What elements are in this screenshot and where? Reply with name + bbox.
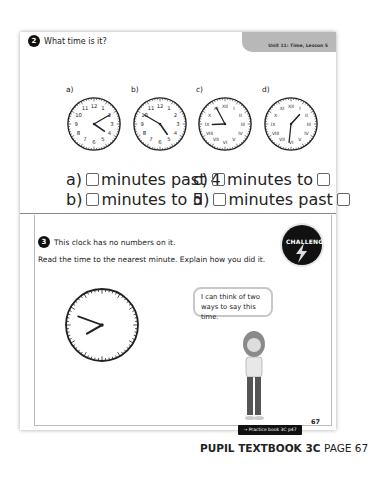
clock-d: XIIIIIIIIIVVVIVIIVIIIIXXXI <box>262 95 320 153</box>
clock-label-a: a) <box>66 85 74 94</box>
girl-character-illustration <box>232 330 276 422</box>
answer-text: minutes past <box>228 190 332 209</box>
challenge-badge: CHALLENGE <box>282 225 322 265</box>
answer-box[interactable] <box>212 173 225 186</box>
practice-book-link[interactable]: → Practice book 3C p47 <box>238 425 302 435</box>
speech-bubble: I can think of two ways to say this time… <box>193 287 273 317</box>
svg-text:III: III <box>241 122 245 127</box>
clock-no-numbers <box>62 285 142 365</box>
svg-text:VIII: VIII <box>272 131 279 136</box>
svg-text:1: 1 <box>167 105 170 111</box>
answer-d: d)minutes past <box>193 190 352 209</box>
section-divider <box>20 213 336 214</box>
svg-text:9: 9 <box>74 121 77 127</box>
unit-label: Unit 11: Time, Lesson 5 <box>268 43 328 48</box>
answer-box[interactable] <box>86 193 99 206</box>
svg-text:II: II <box>305 113 308 118</box>
svg-text:3: 3 <box>176 121 179 127</box>
svg-text:II: II <box>239 113 242 118</box>
question-number: 2 <box>28 35 40 47</box>
svg-text:9: 9 <box>140 121 143 127</box>
question-3: 3This clock has no numbers on it. Read t… <box>38 236 288 271</box>
answer-box-trailing[interactable] <box>337 193 350 206</box>
clock-label-d: d) <box>262 85 270 94</box>
svg-text:I: I <box>299 106 300 111</box>
answer-c: c)minutes to <box>193 170 332 189</box>
svg-text:3: 3 <box>110 121 113 127</box>
svg-text:7: 7 <box>149 136 152 142</box>
page-label: PAGE 67 <box>324 442 368 454</box>
svg-text:XII: XII <box>222 104 228 109</box>
clock-label-c: c) <box>196 85 203 94</box>
clock-label-b: b) <box>131 85 139 94</box>
svg-text:VII: VII <box>279 137 285 142</box>
svg-text:11: 11 <box>148 105 155 111</box>
question-line2: Read the time to the nearest minute. Exp… <box>38 254 288 265</box>
svg-text:XI: XI <box>280 106 285 111</box>
clock-c: XIIIIIIIIIVVVIVIIVIIIIXXXI <box>196 95 254 153</box>
answer-label: d) <box>193 190 209 209</box>
svg-text:VII: VII <box>213 137 219 142</box>
answer-text: minutes to <box>227 170 313 189</box>
svg-text:5: 5 <box>167 136 170 142</box>
svg-text:VIII: VIII <box>206 131 213 136</box>
answer-box[interactable] <box>213 193 226 206</box>
page-number: 67 <box>311 418 320 426</box>
answer-b: b)minutes to 5 <box>66 190 203 209</box>
book-title: PUPIL TEXTBOOK 3C <box>200 442 320 454</box>
clock-b: 121234567891011 <box>131 95 189 153</box>
svg-text:5: 5 <box>101 136 104 142</box>
question-number: 3 <box>38 236 50 248</box>
answer-text: minutes to 5 <box>101 190 202 209</box>
svg-text:I: I <box>233 106 234 111</box>
svg-text:12: 12 <box>91 103 98 109</box>
svg-text:11: 11 <box>82 105 89 111</box>
lightning-icon <box>292 243 312 263</box>
svg-text:1: 1 <box>101 105 104 111</box>
unit-tab: Unit 11: Time, Lesson 5 <box>242 32 336 52</box>
svg-text:III: III <box>307 122 311 127</box>
svg-text:12: 12 <box>157 103 164 109</box>
svg-text:VI: VI <box>223 140 228 145</box>
question-line1: This clock has no numbers on it. <box>54 237 175 248</box>
svg-text:2: 2 <box>174 112 177 118</box>
svg-text:10: 10 <box>75 112 82 118</box>
svg-text:XII: XII <box>288 104 294 109</box>
book-footer: PUPIL TEXTBOOK 3C PAGE 67 <box>200 442 368 454</box>
question-prompt: What time is it? <box>44 37 107 46</box>
clock-a: 121234567891011 <box>65 95 123 153</box>
answer-label: a) <box>66 170 82 189</box>
question-2: 2What time is it? <box>28 35 107 47</box>
answer-label: c) <box>193 170 208 189</box>
answer-label: b) <box>66 190 82 209</box>
answer-box[interactable] <box>86 173 99 186</box>
svg-text:7: 7 <box>83 136 86 142</box>
answer-box-trailing[interactable] <box>317 173 330 186</box>
